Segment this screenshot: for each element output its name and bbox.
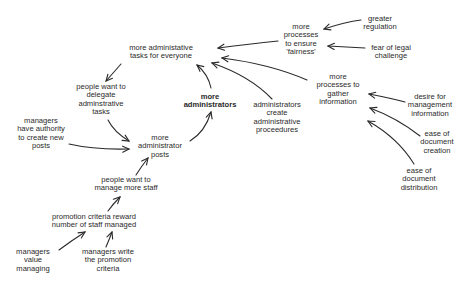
node-label-line: number of staff managed [52,221,136,229]
node-label-line: challenge [371,52,411,60]
edge-administrators-to-tasks [197,65,211,88]
edge-tasks-to-delegate [106,64,121,81]
node-administrators: moreadministrators [184,93,237,110]
node-value: managersvaluemanaging [16,248,50,273]
node-label-line: regulation [363,23,396,31]
edge-posts-to-administrators [190,112,212,141]
node-distribution: ease ofdocumentdistribution [401,167,438,192]
node-regulation: greaterregulation [363,15,396,32]
node-legal: fear of legalchallenge [371,44,411,61]
node-label-line: 'fairness' [284,48,319,56]
edge-promotion-to-staff [108,197,120,211]
node-label-line: information [408,110,452,118]
edge-distribution-to-gather [368,121,414,164]
node-label-line: creation [420,147,453,155]
edge-fairness-to-tasks [218,41,278,50]
node-creation: ease ofdocumentcreation [420,130,453,155]
node-label-line: distribution [401,184,438,192]
edge-legal-to-fairness [328,43,365,49]
edge-desire-to-gather [369,92,405,102]
node-label-line: proceedures [253,126,301,134]
node-label-line: managing [16,265,50,273]
node-label-line: tasks for everyone [129,52,193,60]
node-label-line: administrators [184,101,237,109]
node-write: managers writethe promotioncriteria [82,248,134,273]
edge-authority-to-posts [69,144,129,152]
arrowhead-icon [368,121,375,127]
node-posts: moreadministratorposts [138,134,182,159]
node-fairness: moreprocessesto ensure'fairness' [284,23,319,57]
node-tasks: more administativetasks for everyone [129,44,193,61]
node-delegate: people want todelegateadminstrativetasks [76,83,125,117]
node-desire: desire formanagementinformation [408,93,452,118]
node-label-line: posts [17,142,65,150]
edge-staff-to-posts [136,158,148,175]
edge-write-to-promotion [106,232,113,247]
edge-regulation-to-fairness [324,20,361,30]
node-authority: managershave authorityto create newposts [17,117,65,151]
arrowhead-icon [122,135,129,141]
node-procedures: administratorscreateadministrativeprocee… [253,101,301,135]
node-gather: moreprocesses togatherinformation [316,73,359,107]
node-label-line: posts [138,151,182,159]
node-label-line: tasks [76,108,125,116]
causal-loop-diagram: more administativetasks for everyonemore… [0,0,466,290]
arrowhead-icon [78,232,85,238]
node-label-line: manage more staff [94,184,157,192]
node-promotion: promotion criteria rewardnumber of staff… [52,213,136,230]
node-staff: people want tomanage more staff [94,176,157,193]
edge-gather-to-tasks [222,56,307,80]
node-label-line: criteria [82,265,134,273]
node-label-line: information [316,98,359,106]
edge-delegate-to-posts [108,120,129,141]
